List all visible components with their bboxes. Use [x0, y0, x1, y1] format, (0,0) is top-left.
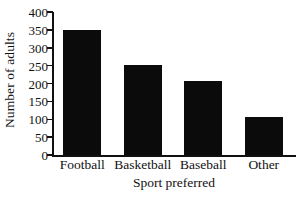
- x-axis-tick-label: Basketball: [114, 157, 171, 173]
- bar-chart: Number of adults 05010015020025030035040…: [0, 0, 298, 201]
- y-axis-title-text: Number of adults: [2, 32, 18, 128]
- plot-area: [52, 12, 294, 155]
- x-axis-tick-label: Baseball: [180, 157, 227, 173]
- y-axis-title: Number of adults: [0, 0, 20, 160]
- y-axis-tick-label: 150: [29, 95, 49, 108]
- y-axis-tick-mark: [47, 136, 53, 138]
- y-axis-tick-label: 300: [29, 41, 49, 54]
- bar: [184, 81, 222, 155]
- y-axis-tick-label: 400: [29, 6, 49, 19]
- y-axis-tick-mark: [47, 119, 53, 121]
- y-axis-tick-mark: [47, 29, 53, 31]
- y-axis-tick-mark: [47, 83, 53, 85]
- bar: [124, 65, 162, 155]
- y-axis-tick-label: 350: [29, 23, 49, 36]
- bar: [63, 30, 101, 155]
- x-axis-title: Sport preferred: [52, 175, 296, 191]
- y-axis-tick-label: 250: [29, 59, 49, 72]
- bar: [245, 117, 283, 155]
- x-axis-tick-label: Other: [248, 157, 279, 173]
- y-axis-tick-mark: [47, 11, 53, 13]
- y-axis-tick-label: 200: [29, 77, 49, 90]
- y-axis-tick-label: 100: [29, 113, 49, 126]
- y-axis-tick-mark: [47, 101, 53, 103]
- y-axis-tick-mark: [47, 65, 53, 67]
- x-axis-tick-labels: FootballBasketballBaseballOther: [52, 157, 296, 175]
- x-axis-tick-label: Football: [60, 157, 105, 173]
- y-axis-tick-mark: [47, 154, 53, 156]
- y-axis-tick-labels: 050100150200250300350400: [18, 0, 48, 161]
- y-axis-tick-mark: [47, 47, 53, 49]
